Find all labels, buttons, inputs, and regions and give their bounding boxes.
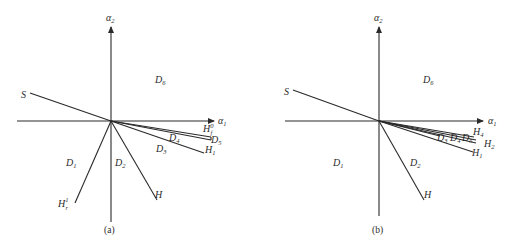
alpha2-label-b: α2: [374, 12, 383, 24]
region-D6-a: D6: [154, 74, 166, 86]
line-D3-b: [379, 121, 440, 136]
label-H-a: H: [154, 189, 163, 200]
alpha1-label-b: α1: [488, 115, 497, 127]
region-D5-a: D5: [210, 134, 222, 146]
line-Hr1-a: [75, 121, 111, 203]
label-H-b: H: [423, 189, 432, 200]
label-H1-b: H1: [471, 147, 482, 159]
alpha2-label-a: α2: [106, 12, 115, 24]
line-H4-b: [379, 121, 474, 137]
caption-a: (a): [104, 225, 115, 236]
region-D1-a: D1: [65, 157, 76, 169]
label-H2-b: H2: [483, 138, 495, 150]
label-H4-b: H4: [472, 126, 484, 138]
line-H-b: [379, 121, 424, 200]
region-D5-b: D5: [461, 132, 473, 144]
label-H1-a: H1: [204, 144, 215, 156]
region-D1-b: D1: [332, 157, 343, 169]
region-D2-a: D2: [114, 157, 126, 169]
region-D3-a: D3: [155, 143, 167, 155]
line-S-a: [30, 93, 111, 121]
label-S-b: S: [284, 86, 289, 97]
alpha1-label-a: α1: [218, 115, 227, 127]
label-Hr1-a: H1r: [57, 196, 68, 211]
region-D2-b: D2: [409, 157, 421, 169]
panel-b: α2 α1 S H H1 H2 H4 D6 D3 D4 D5 D1 D2 (b): [284, 12, 497, 236]
label-S-a: S: [21, 89, 26, 100]
region-D4-b: D4: [449, 132, 461, 144]
line-S-b: [293, 90, 379, 121]
line-D5-upper-a: [111, 121, 211, 140]
panel-a: α2 α1 S H1r H H1 H0f D6 D5 D4 D3 D1 D2 (…: [17, 12, 227, 236]
caption-b: (b): [372, 225, 383, 236]
region-D6-b: D6: [422, 74, 434, 86]
